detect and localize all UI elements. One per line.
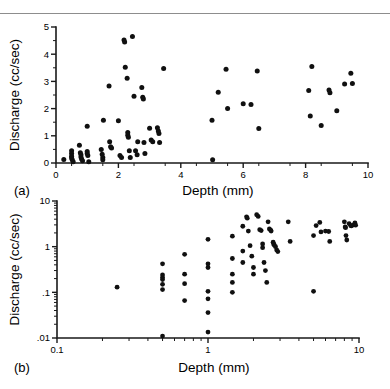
panel-a-x-ticklabel: 8 xyxy=(303,169,308,180)
panel-a-x-axis-title: Depth (mm) xyxy=(182,183,253,198)
panel-a-data-point xyxy=(147,126,152,131)
panel-b-data-point xyxy=(240,260,245,265)
panel-b-y-ticklabel: .1 xyxy=(42,287,50,298)
panel-b-data-point xyxy=(230,290,235,295)
panel-a-data-point xyxy=(125,76,130,81)
panel-a-data-point xyxy=(256,126,261,131)
panel-b-x-axis-title: Depth (mm) xyxy=(178,360,249,375)
panel-a-data-point xyxy=(135,152,140,157)
panel-a-data-point xyxy=(348,71,353,76)
panel-b-data-point xyxy=(115,285,120,290)
panel-b-tag: (b) xyxy=(14,360,30,375)
panel-a-data-point xyxy=(210,118,215,123)
panel-a-data-point xyxy=(225,106,230,111)
panel-a-data-point xyxy=(161,66,166,71)
panel-a-data-point xyxy=(156,131,161,136)
panel-a-tag: (a) xyxy=(14,183,30,198)
panel-b-data-point xyxy=(343,225,348,230)
panel-b-data-point xyxy=(245,216,250,221)
panel-b-x-ticklabel: 10 xyxy=(354,344,365,355)
panel-b-data-point xyxy=(314,223,319,228)
panel-a-y-ticklabel: 4 xyxy=(44,49,49,60)
panel-b-data-point xyxy=(230,256,235,261)
panel-a-data-point xyxy=(334,108,339,113)
panel-a: 0123450246810Depth (mm)Discharge (cc/sec… xyxy=(7,21,373,198)
panel-a-data-point xyxy=(141,140,146,145)
panel-a-data-point xyxy=(309,64,314,69)
panel-a-data-point xyxy=(342,82,347,87)
panel-b-data-point xyxy=(182,252,187,257)
panel-b-data-point xyxy=(275,249,280,254)
panel-b-data-point xyxy=(240,249,245,254)
panel-b-data-point xyxy=(246,229,251,234)
panel-b-data-point xyxy=(160,334,165,339)
panel-b-data-point xyxy=(206,310,211,315)
panel-a-data-point xyxy=(249,102,254,107)
panel-a-axes xyxy=(56,27,368,163)
panel-a-data-point xyxy=(255,69,260,74)
panel-b-data-point xyxy=(251,265,256,270)
panel-b-data-point xyxy=(230,280,235,285)
panel-b-data-point xyxy=(206,296,211,301)
panel-b-data-point xyxy=(206,237,211,242)
panel-b-data-point xyxy=(342,219,347,224)
panel-b-data-point xyxy=(269,229,274,234)
panel-a-data-point xyxy=(135,139,140,144)
panel-a-y-ticklabel: 5 xyxy=(44,21,49,32)
panel-b-data-point xyxy=(160,261,165,266)
panel-b-data-point xyxy=(260,245,265,250)
panel-a-data-point xyxy=(119,155,124,160)
panel-a-data-point xyxy=(100,157,105,162)
panel-a-data-point xyxy=(241,101,246,106)
panel-b-data-point xyxy=(286,219,291,224)
panel-b-data-point xyxy=(230,272,235,277)
panel-b-data-point xyxy=(182,298,187,303)
panel-a-data-point xyxy=(157,140,162,145)
panel-b-data-point xyxy=(251,272,256,277)
panel-a-data-point xyxy=(61,157,66,162)
panel-a-data-point xyxy=(99,147,104,152)
top-divider-rule xyxy=(0,13,390,14)
panel-b-data-point xyxy=(182,281,187,286)
panel-b: .01.11100.1110Depth (mm)Discharge (cc/se… xyxy=(7,195,364,375)
panel-a-data-point xyxy=(327,90,332,95)
panel-b-x-ticklabel: 1 xyxy=(205,344,210,355)
panel-b-data-point xyxy=(344,233,349,238)
panel-a-x-ticklabel: 10 xyxy=(363,169,374,180)
panel-b-data-point xyxy=(327,239,332,244)
panel-a-data-point xyxy=(128,155,133,160)
panel-b-data-point xyxy=(263,268,268,273)
panel-b-data-point xyxy=(256,214,261,219)
panel-a-data-point xyxy=(306,88,311,93)
panel-b-data-point xyxy=(160,277,165,282)
panel-a-data-point xyxy=(216,90,221,95)
panel-b-data-point xyxy=(344,238,349,243)
panel-b-data-point xyxy=(240,224,245,229)
panel-a-y-axis-title: Discharge (cc/sec) xyxy=(7,39,22,151)
panel-a-x-ticklabel: 4 xyxy=(178,169,183,180)
panel-a-data-point xyxy=(107,139,112,144)
panel-b-data-point xyxy=(248,243,253,248)
panel-b-data-point xyxy=(182,272,187,277)
panel-b-data-point xyxy=(206,265,211,270)
panel-a-data-point xyxy=(126,135,131,140)
panel-b-data-point xyxy=(259,228,264,233)
panel-a-y-ticklabel: 0 xyxy=(44,157,49,168)
panel-b-y-ticklabel: 1 xyxy=(45,241,50,252)
panel-a-data-point xyxy=(107,84,112,89)
panel-b-data-point xyxy=(206,289,211,294)
panel-b-y-axis-title: Discharge (cc/sec) xyxy=(7,214,22,326)
panel-b-data-point xyxy=(266,219,271,224)
panel-b-x-ticklabel: 0.1 xyxy=(50,344,63,355)
panel-a-data-point xyxy=(122,39,127,44)
panel-a-x-ticklabel: 6 xyxy=(241,169,246,180)
panel-a-data-point xyxy=(85,153,90,158)
panel-b-data-point xyxy=(206,330,211,335)
panel-a-data-point xyxy=(319,123,324,128)
panel-a-data-point xyxy=(141,97,146,102)
panel-b-data-point xyxy=(288,239,293,244)
panel-a-y-ticklabel: 2 xyxy=(44,103,49,114)
panel-a-data-point xyxy=(80,158,85,163)
panel-a-data-point xyxy=(139,85,144,90)
panel-a-data-point xyxy=(210,157,215,162)
